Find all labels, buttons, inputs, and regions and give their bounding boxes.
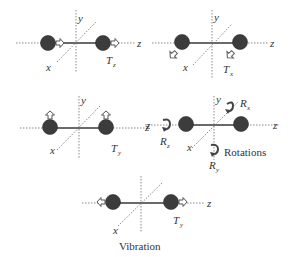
rx-label: R xyxy=(239,97,247,109)
y-axis-label: y xyxy=(213,11,219,23)
rotations-caption: Rotations xyxy=(224,146,266,158)
x-axis-label: x xyxy=(49,144,55,156)
atom-left xyxy=(179,117,194,132)
panel-translation-y: y z x T y xyxy=(20,94,150,158)
rz-label: R xyxy=(159,135,167,147)
ry-subscript: y xyxy=(215,166,220,174)
rx-subscript: x xyxy=(246,104,251,112)
atom-left xyxy=(175,35,190,50)
atom-left xyxy=(43,120,58,135)
ry-label: R xyxy=(208,159,216,171)
atom-right xyxy=(96,36,111,51)
z-axis-label-left: z xyxy=(145,119,151,131)
arrow-diagonal-icon xyxy=(224,49,236,61)
mode-label: T xyxy=(106,54,113,66)
arrow-right-icon xyxy=(56,39,64,48)
mode-subscript: y xyxy=(117,149,122,157)
panel-rotations: R x R z R y Rotations y z z x xyxy=(145,93,280,174)
panel-vibration: z x T y Vibration xyxy=(82,176,212,252)
atom-right xyxy=(234,117,249,132)
arrow-up-icon xyxy=(46,111,55,119)
diatomic-motions-diagram: y z x T z y z x T x y z x xyxy=(0,0,293,257)
atom-right xyxy=(99,120,114,135)
z-axis-label: z xyxy=(206,197,212,209)
mode-subscript: x xyxy=(229,70,234,78)
arrow-right-icon xyxy=(111,39,119,48)
arrow-left-icon xyxy=(97,198,105,207)
x-axis-label: x xyxy=(45,61,51,73)
arrow-diagonal-icon xyxy=(167,49,179,61)
rotation-arrowhead-icon xyxy=(225,109,230,114)
atom-left xyxy=(41,36,56,51)
y-axis-label: y xyxy=(80,94,86,106)
panel-translation-z: y z x T z xyxy=(16,10,142,73)
mode-label: T xyxy=(111,142,118,154)
atom-left xyxy=(106,195,121,210)
x-axis-label: x xyxy=(182,61,188,73)
mode-label: T xyxy=(223,63,230,75)
z-axis-label: z xyxy=(136,37,142,49)
y-axis-label: y xyxy=(77,12,83,24)
y-axis-label: y xyxy=(215,93,221,105)
atom-right xyxy=(164,195,179,210)
rz-subscript: z xyxy=(166,142,170,150)
z-axis-label-right: z xyxy=(272,119,278,131)
panel-translation-x: y z x T x xyxy=(152,10,275,78)
arrow-right-icon xyxy=(179,198,187,207)
x-axis-label: x xyxy=(112,224,118,236)
mode-subscript: y xyxy=(179,221,184,229)
z-axis-label: z xyxy=(269,37,275,49)
x-axis-label: x xyxy=(186,141,192,153)
vibration-caption: Vibration xyxy=(119,240,161,252)
atom-right xyxy=(233,35,248,50)
mode-subscript: z xyxy=(112,61,116,69)
arrow-up-icon xyxy=(102,111,111,119)
mode-label: T xyxy=(173,214,180,226)
